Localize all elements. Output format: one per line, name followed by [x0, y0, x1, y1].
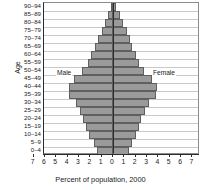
x-axis-tick-label: 3	[140, 158, 152, 165]
age-tick-label: 25–29	[12, 106, 41, 114]
bar-row	[44, 59, 198, 67]
bar-row	[44, 131, 198, 139]
bar-male	[69, 83, 113, 91]
bar-row	[44, 19, 198, 27]
bar-row	[44, 3, 198, 11]
bar-female	[113, 51, 136, 59]
bar-row	[44, 115, 198, 123]
x-axis-tick	[112, 154, 113, 157]
x-axis-tick-label: 2	[83, 158, 95, 165]
x-axis-tick	[33, 154, 34, 157]
x-axis-tick	[191, 154, 192, 157]
age-tick-label: 75–79	[12, 26, 41, 34]
age-tick-label: 35–39	[12, 90, 41, 98]
bar-female	[113, 115, 141, 123]
bar-female	[113, 59, 139, 67]
bar-row	[44, 43, 198, 51]
series-label-female: Female	[152, 69, 176, 76]
x-axis-tick	[101, 154, 102, 157]
bar-female	[113, 75, 152, 83]
age-tick-label: 40–44	[12, 82, 41, 90]
x-axis-tick-label: 3	[72, 158, 84, 165]
age-tick-label: 5–9	[12, 138, 41, 146]
bar-male	[83, 115, 113, 123]
age-tick-label: 15–19	[12, 122, 41, 130]
age-tick-label: 65–69	[12, 42, 41, 50]
bar-female	[113, 91, 156, 99]
age-tick-label: 50–54	[12, 66, 41, 74]
bar-row	[44, 107, 198, 115]
bar-row	[44, 75, 198, 83]
bar-female	[113, 19, 123, 27]
x-axis-tick-label: 1	[117, 158, 129, 165]
bar-male	[69, 91, 113, 99]
bar-male	[94, 139, 113, 147]
bar-row	[44, 51, 198, 59]
bar-female	[113, 67, 144, 75]
x-axis-tick	[55, 154, 56, 157]
bar-male	[102, 27, 113, 35]
x-axis-tick	[157, 154, 158, 157]
x-axis-tick-label: 0	[106, 158, 118, 165]
age-tick-label: 45–49	[12, 74, 41, 82]
bar-female	[113, 43, 132, 51]
bar-male	[105, 19, 113, 27]
bar-male	[82, 67, 113, 75]
bar-row	[44, 35, 198, 43]
x-axis-tick	[44, 154, 45, 157]
age-tick-label: 85–89	[12, 10, 41, 18]
bar-male	[74, 75, 113, 83]
x-axis-tick	[169, 154, 170, 157]
bar-female	[113, 99, 149, 107]
age-tick-label: 80–84	[12, 18, 41, 26]
x-axis-tick	[146, 154, 147, 157]
bar-row	[44, 91, 198, 99]
bar-row	[44, 83, 198, 91]
x-axis-tick-label: 7	[27, 158, 39, 165]
x-axis-tick	[135, 154, 136, 157]
population-pyramid-chart: Age 0–45–910–1415–1920–2425–2930–3435–39…	[0, 0, 201, 190]
bar-row	[44, 99, 198, 107]
x-axis-tick-label: 5	[163, 158, 175, 165]
age-tick-label: 90–94	[12, 2, 41, 10]
x-axis-tick	[123, 154, 124, 157]
x-axis-tick-label: 5	[49, 158, 61, 165]
age-tick-label: 55–59	[12, 58, 41, 66]
x-axis-tick-label: 6	[38, 158, 50, 165]
bar-male	[76, 99, 113, 107]
age-tick-label: 10–14	[12, 130, 41, 138]
bar-male	[86, 123, 113, 131]
x-axis-tick-label: 4	[151, 158, 163, 165]
bar-female	[113, 131, 136, 139]
bar-row	[44, 27, 198, 35]
x-axis-tick-label: 7	[185, 158, 197, 165]
bar-male	[88, 59, 113, 67]
age-tick-label: 20–24	[12, 114, 41, 122]
bars-group	[44, 3, 198, 153]
age-tick-label: 70–74	[12, 34, 41, 42]
bar-row	[44, 123, 198, 131]
bar-male	[91, 51, 113, 59]
bar-male	[98, 35, 113, 43]
bar-female	[113, 107, 145, 115]
y-axis-tick-labels: 0–45–910–1415–1920–2425–2930–3435–3940–4…	[12, 2, 42, 154]
x-axis-tick-label: 4	[61, 158, 73, 165]
x-axis-tick	[180, 154, 181, 157]
x-axis-tick	[89, 154, 90, 157]
center-axis-line	[113, 3, 114, 153]
bar-female	[113, 27, 127, 35]
bar-male	[95, 43, 113, 51]
x-axis-tick-label: 6	[174, 158, 186, 165]
age-tick-label: 30–34	[12, 98, 41, 106]
bar-row	[44, 139, 198, 147]
x-axis-tick-label: 1	[95, 158, 107, 165]
bar-female	[113, 139, 132, 147]
x-axis-tick-label: 2	[129, 158, 141, 165]
bar-female	[113, 11, 120, 19]
age-tick-label: 60–64	[12, 50, 41, 58]
bar-male	[80, 107, 113, 115]
bar-female	[113, 83, 157, 91]
plot-area: Male Female	[43, 2, 199, 154]
age-tick-label: 0–4	[12, 146, 41, 154]
x-axis-title: Percent of population, 2000	[0, 175, 201, 184]
